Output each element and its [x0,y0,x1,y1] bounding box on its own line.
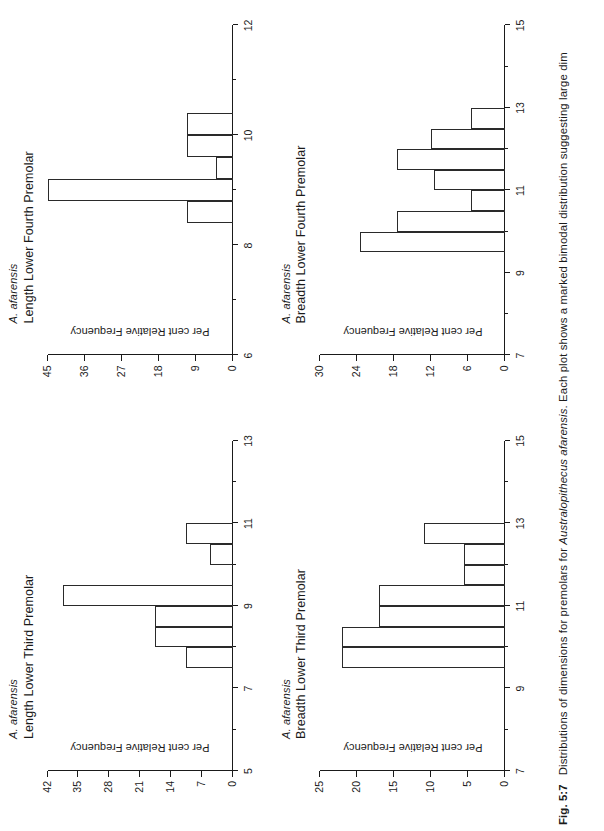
y-axis-line [320,770,505,771]
y-axis-tick: 5 [467,771,468,777]
panel-title-block: A. afarensisBreadth Lower Fourth Premola… [279,146,310,324]
x-axis-tick-label: 13 [514,102,526,114]
histogram-bar [155,606,232,627]
y-axis-tick: 10 [430,771,431,777]
y-axis-tick: 45 [47,356,48,362]
x-axis-tick-label: 8 [242,243,254,249]
histogram-bar [379,606,505,627]
x-axis-tick: 11 [505,605,510,606]
y-axis-line [48,355,233,356]
y-axis-tick-label: 30 [313,366,325,378]
y-axis-label: Per cent Relative Frequency [71,742,210,754]
y-axis-tick-label: 10 [424,781,436,793]
x-axis-tick-label: 11 [514,601,526,612]
histogram-bar [471,191,505,212]
y-axis-tick: 20 [356,771,357,777]
x-axis-tick: 13 [505,107,510,108]
y-axis-tick: 18 [393,356,394,362]
y-axis-tick-label: 0 [498,366,510,372]
x-axis-tick-label: 15 [514,20,526,32]
caption-species-name: Australopithecus afarensis [557,409,569,545]
measurement-label: Breadth Lower Third Premolar [293,569,310,739]
y-axis-tick-label: 21 [133,781,145,793]
y-axis-tick-label: 35 [71,781,83,793]
x-axis-tick-label: 11 [242,518,254,529]
y-axis-tick: 24 [356,356,357,362]
x-axis-tick-label: 10 [242,130,254,142]
y-axis-tick: 36 [84,356,85,362]
histogram-bar [186,524,232,545]
y-axis-tick-label: 12 [424,366,436,378]
y-axis-tick-label: 5 [461,781,473,787]
y-axis-tick-label: 27 [115,366,127,378]
y-axis-tick: 0 [232,771,233,777]
plot-area: 0918273645681012Per cent Relative Freque… [48,26,233,356]
panel-length-lower-fourth-premolar: A. afarensisLength Lower Fourth Premolar… [0,0,273,416]
histogram-bar [187,202,232,224]
y-axis-tick-label: 15 [387,781,399,793]
x-axis-minor-tick [233,564,236,565]
x-axis-tick: 7 [505,355,510,356]
x-axis-minor-tick [505,481,508,482]
panel-title-block: A. afarensisLength Lower Third Premolar [6,575,37,739]
x-axis-minor-tick [505,313,508,314]
histogram-bar [187,136,232,158]
x-axis-minor-tick [505,66,508,67]
y-axis-tick-label: 9 [189,366,201,372]
x-axis-tick-label: 7 [514,768,526,774]
histogram-grid: A. afarensisLength Lower Third Premolar0… [0,0,545,831]
y-axis-tick: 28 [108,771,109,777]
y-axis-tick-label: 18 [152,366,164,378]
x-axis-minor-tick [233,481,236,482]
x-axis-tick-label: 13 [514,518,526,530]
y-axis-tick: 25 [319,771,320,777]
x-axis-tick: 10 [233,135,238,136]
y-axis-label: Per cent Relative Frequency [343,742,482,754]
measurement-label: Length Lower Fourth Premolar [21,151,38,323]
x-axis-tick: 11 [233,523,238,524]
x-axis-tick: 13 [505,523,510,524]
histogram-bar [431,129,505,150]
x-axis-tick-label: 12 [242,20,254,32]
figure-page: A. afarensisLength Lower Third Premolar0… [0,0,604,831]
y-axis-tick-label: 36 [78,366,90,378]
x-axis-tick: 11 [505,190,510,191]
histogram-bar [48,180,233,202]
x-axis-tick: 13 [233,440,238,441]
figure-number: Fig. 5:7 [557,784,569,825]
y-axis-tick: 15 [393,771,394,777]
x-axis-tick: 12 [233,25,238,26]
x-axis-tick-label: 15 [514,435,526,447]
histogram-bar [186,647,232,668]
y-axis-tick: 12 [430,356,431,362]
histogram-bar [464,544,505,565]
x-axis-minor-tick [233,729,236,730]
x-axis-tick-label: 5 [242,768,254,774]
y-axis-tick-label: 6 [461,366,473,372]
y-axis-label: Per cent Relative Frequency [343,326,482,338]
histogram-bar [471,108,505,129]
x-axis-tick-label: 13 [242,435,254,447]
y-axis-tick: 7 [201,771,202,777]
y-axis-line [48,770,233,771]
y-axis-tick-label: 0 [226,366,238,372]
y-axis-tick: 6 [467,356,468,362]
species-label: A. afarensis [279,569,294,739]
y-axis-tick-label: 45 [41,366,53,378]
y-axis-tick: 18 [158,356,159,362]
panel-breadth-lower-third-premolar: A. afarensisBreadth Lower Third Premolar… [273,416,546,831]
y-axis-tick: 9 [195,356,196,362]
y-axis-tick-label: 18 [387,366,399,378]
x-axis-tick-label: 7 [514,353,526,359]
x-axis-tick: 8 [233,245,238,246]
x-axis-tick: 9 [233,605,238,606]
x-axis-tick: 15 [505,440,510,441]
y-axis-tick-label: 0 [498,781,510,787]
y-axis-tick: 14 [170,771,171,777]
histogram-bar [424,524,505,545]
x-axis-tick-label: 11 [514,185,526,196]
panel-title-block: A. afarensisBreadth Lower Third Premolar [279,569,310,739]
y-axis-tick-label: 20 [350,781,362,793]
x-axis-tick: 7 [233,688,238,689]
x-axis-minor-tick [233,646,236,647]
